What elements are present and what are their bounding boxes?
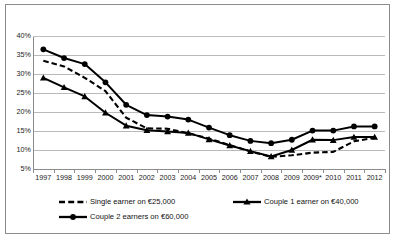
legend-item-single-earner[interactable]: Single earner on €25,000 [58, 196, 175, 207]
data-point-circle [123, 102, 129, 108]
x-axis-tick [385, 169, 386, 173]
data-point-circle [248, 138, 254, 144]
data-point-circle [40, 46, 46, 52]
legend-label-couple-1-earner: Couple 1 earner on €40,000 [264, 197, 359, 206]
data-point-circle [206, 125, 212, 131]
data-point-circle [351, 124, 357, 130]
x-axis-tick-label: 2009 [281, 173, 302, 182]
x-axis-tick-label: 2009* [302, 173, 323, 182]
x-axis-tick-label: 2012 [364, 173, 385, 182]
legend-label-single-earner: Single earner on €25,000 [90, 197, 175, 206]
data-point-circle [330, 128, 336, 134]
x-axis-tick-label: 2004 [178, 173, 199, 182]
x-axis-tick-label: 2007 [240, 173, 261, 182]
series-line [43, 78, 374, 157]
chart-figure: 40%35%30%25%20%15%10%5% Single earner on… [0, 0, 402, 246]
x-axis-tick-label: 2003 [157, 173, 178, 182]
data-point-circle [289, 137, 295, 143]
legend-swatch-triangle [232, 197, 262, 207]
x-axis-tick-label: 2000 [95, 173, 116, 182]
x-axis-tick-label: 1997 [33, 173, 54, 182]
data-point-circle [227, 132, 233, 138]
x-axis-tick-label: 2005 [199, 173, 220, 182]
x-axis-tick-label: 2008 [261, 173, 282, 182]
series-1 [43, 61, 374, 157]
x-axis-tick-label: 1998 [54, 173, 75, 182]
data-point-circle [185, 117, 191, 123]
legend-swatch-dashed [58, 197, 88, 207]
data-point-circle [103, 79, 109, 85]
legend-label-couple-2-earners: Couple 2 earners on €60,000 [90, 212, 188, 221]
data-point-circle [165, 114, 171, 120]
x-axis-tick-label: 2002 [137, 173, 158, 182]
data-point-circle [372, 124, 378, 130]
data-point-circle [310, 128, 316, 134]
legend-swatch-circle [58, 212, 88, 222]
x-axis-tick-label: 2006 [219, 173, 240, 182]
x-axis-tick-label: 1999 [74, 173, 95, 182]
data-point-circle [61, 55, 67, 61]
data-point-circle [268, 140, 274, 146]
x-axis-tick-label: 2001 [116, 173, 137, 182]
data-point-circle [82, 61, 88, 67]
series-3 [40, 46, 377, 146]
legend-item-couple-1-earner[interactable]: Couple 1 earner on €40,000 [232, 196, 359, 207]
chart-legend: Single earner on €25,000 Couple 1 earner… [36, 196, 366, 230]
x-axis-tick-label: 2010 [323, 173, 344, 182]
series-2 [40, 74, 378, 159]
data-point-triangle [40, 74, 47, 80]
legend-item-couple-2-earners[interactable]: Couple 2 earners on €60,000 [58, 211, 188, 222]
x-axis-tick-label: 2011 [344, 173, 365, 182]
series-line [43, 61, 374, 157]
data-point-circle [144, 112, 150, 118]
